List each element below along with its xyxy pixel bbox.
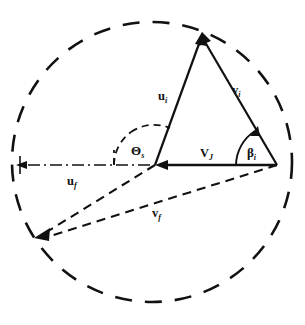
outer-dashed-circle — [12, 22, 292, 302]
label-u-initial-base: u — [158, 89, 165, 103]
vector-v-final-line — [47, 165, 277, 237]
vector-final-arrowhead — [34, 228, 50, 241]
label-beta-sub: i — [254, 153, 257, 162]
reference-axis-arrowhead — [16, 161, 27, 169]
label-v-initial: vi — [232, 83, 241, 99]
angle-theta-arc-upper — [131, 125, 170, 132]
label-u-initial: ui — [158, 89, 168, 105]
label-beta: βi — [247, 145, 257, 162]
label-V-jupiter-sub: J — [208, 153, 214, 162]
angle-theta-arc — [114, 132, 131, 165]
label-v-final: vf — [152, 206, 162, 222]
label-theta: Θs — [131, 143, 144, 160]
vector-u-initial-line — [155, 41, 200, 165]
vector-diagram-figure: ui vi VJ uf vf Θs βi — [0, 0, 305, 325]
label-theta-base: Θ — [131, 143, 141, 158]
label-v-initial-sub: i — [238, 90, 241, 99]
vector-u-final-line — [45, 165, 155, 233]
label-V-jupiter-base: V — [200, 146, 209, 160]
label-u-final: uf — [67, 174, 78, 190]
label-v-final-sub: f — [158, 213, 162, 222]
label-u-initial-sub: i — [165, 96, 168, 105]
label-V-jupiter: VJ — [200, 146, 214, 162]
diagram-canvas: ui vi VJ uf vf Θs βi — [0, 0, 305, 325]
label-theta-sub: s — [140, 151, 144, 160]
label-u-final-base: u — [67, 174, 74, 188]
label-u-final-sub: f — [74, 181, 78, 190]
